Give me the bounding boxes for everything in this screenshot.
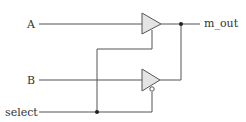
junction-select (95, 110, 99, 114)
junction-output (179, 22, 183, 26)
input-label-a: A (26, 18, 36, 31)
output-label-m-out: m_out (204, 17, 239, 30)
input-label-b: B (27, 74, 35, 87)
mux-circuit-diagram: A B select m_out (0, 0, 246, 122)
wire-out-bottom (160, 24, 181, 80)
input-label-select: select (5, 106, 38, 119)
inverter-bubble (150, 87, 154, 91)
